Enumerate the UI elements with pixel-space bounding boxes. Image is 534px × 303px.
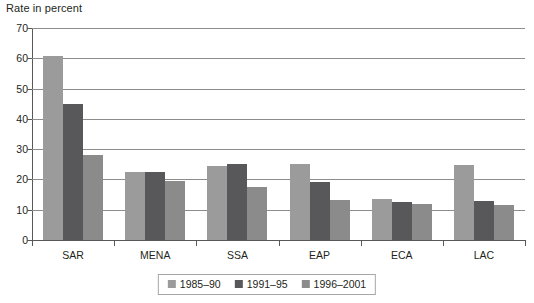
legend-swatch-icon [235, 280, 243, 288]
chart-legend: 1985–901991–951996–2001 [158, 274, 376, 295]
bar-group [443, 28, 525, 240]
x-axis-label-eca: ECA [391, 249, 413, 261]
bar [125, 172, 145, 240]
bar [454, 165, 474, 240]
legend-label: 1985–90 [180, 278, 221, 290]
bar [372, 199, 392, 240]
y-axis-tick-label: 0 [4, 234, 28, 246]
bar-group [196, 28, 278, 240]
bar-chart: Rate in percent 010203040506070 SARMENAS… [0, 0, 534, 303]
y-axis-tick-label: 50 [4, 83, 28, 95]
y-axis-tick-label: 70 [4, 22, 28, 34]
legend-item: 1996–2001 [302, 278, 367, 290]
y-axis-tick-label: 40 [4, 113, 28, 125]
bar [227, 164, 247, 240]
x-axis-label-ssa: SSA [227, 249, 248, 261]
bar-group [32, 28, 114, 240]
y-axis-tick-group: 010203040506070 [0, 0, 28, 303]
bar [474, 201, 494, 240]
bar [290, 164, 310, 240]
bar [330, 200, 350, 240]
x-axis-tick-mark [114, 240, 115, 246]
x-axis-tick-mark [196, 240, 197, 246]
x-axis-label-sar: SAR [62, 249, 84, 261]
legend-label: 1991–95 [247, 278, 288, 290]
bar [63, 104, 83, 240]
x-axis-tick-mark [32, 240, 33, 246]
bar [310, 182, 330, 240]
legend-item: 1991–95 [235, 278, 288, 290]
bar-group [279, 28, 361, 240]
bar [494, 205, 514, 240]
bar [43, 56, 63, 240]
x-axis-label-eap: EAP [309, 249, 330, 261]
bar [392, 202, 412, 240]
bar [247, 187, 267, 240]
y-axis-tick-label: 30 [4, 143, 28, 155]
y-axis-tick-label: 60 [4, 52, 28, 64]
x-axis-tick-mark [443, 240, 444, 246]
y-axis-tick-label: 10 [4, 204, 28, 216]
y-axis-tick-label: 20 [4, 173, 28, 185]
x-axis-tick-mark [361, 240, 362, 246]
plot-area [32, 28, 525, 240]
x-axis-tick-mark [525, 240, 526, 246]
bar [165, 181, 185, 240]
bar [412, 204, 432, 240]
x-axis-label-mena: MENA [140, 249, 170, 261]
x-axis-label-lac: LAC [474, 249, 494, 261]
bar [83, 155, 103, 240]
legend-swatch-icon [168, 280, 176, 288]
bar-group [114, 28, 196, 240]
bar-group [361, 28, 443, 240]
legend-swatch-icon [302, 280, 310, 288]
bar [207, 166, 227, 240]
legend-label: 1996–2001 [314, 278, 367, 290]
x-axis-tick-mark [279, 240, 280, 246]
bar [145, 172, 165, 240]
legend-item: 1985–90 [168, 278, 221, 290]
